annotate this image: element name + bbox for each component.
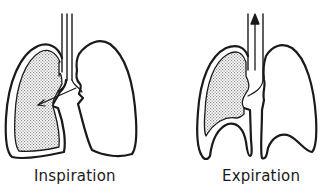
trachea [62, 14, 72, 80]
respiration-diagram [0, 0, 330, 193]
air-arrow-out-icon [251, 14, 259, 70]
bronchus [248, 80, 263, 96]
right-lung [76, 41, 136, 156]
expiration-panel [197, 14, 316, 159]
inspiration-label: Inspiration [34, 167, 116, 185]
inspiration-panel [6, 14, 137, 158]
expiration-label: Expiration [222, 167, 300, 185]
right-lung [261, 45, 316, 158]
